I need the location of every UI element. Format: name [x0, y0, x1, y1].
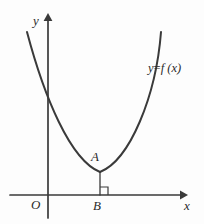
y-axis-arrowhead — [44, 13, 53, 21]
origin-label: O — [31, 198, 40, 211]
point-b-label: B — [93, 199, 101, 212]
x-axis-label: x — [184, 199, 190, 212]
right-angle-mark — [100, 187, 108, 195]
curve-equation-label: y=f (x) — [148, 62, 181, 75]
curve-equation-rhs: f (x) — [161, 61, 181, 75]
point-a-label: A — [91, 150, 99, 163]
y-axis-label: y — [33, 14, 39, 27]
coordinate-plane-figure — [0, 0, 204, 224]
curve-equation-equals: = — [154, 61, 161, 75]
y-axis — [44, 13, 53, 218]
point-a-marker — [99, 171, 101, 173]
